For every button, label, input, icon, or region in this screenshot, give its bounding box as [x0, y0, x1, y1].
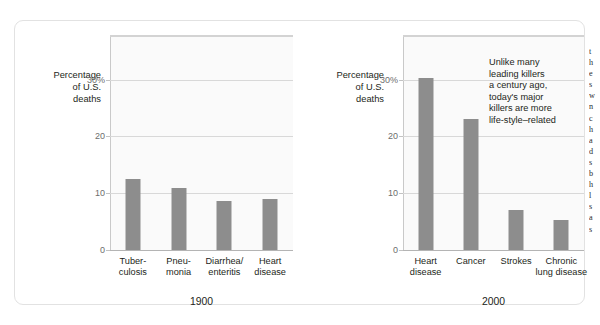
cutoff-text-line: b: [589, 168, 600, 179]
cutoff-text-line: n: [589, 101, 600, 112]
cutoff-text-line: s: [589, 157, 600, 168]
bar: [509, 210, 524, 250]
y-tick-label: 10: [95, 188, 105, 198]
cutoff-text-line: t: [589, 46, 600, 57]
plot-inner-2000: Unlike manyleading killersa century ago,…: [403, 37, 584, 250]
bar: [554, 220, 569, 250]
x-tick-label: Tuber-culosis: [119, 256, 147, 279]
plot-area-2000: Unlike manyleading killersa century ago,…: [403, 35, 584, 250]
bar: [263, 199, 278, 250]
bar: [463, 119, 478, 250]
annotation-line: a century ago,: [489, 80, 585, 92]
bar: [217, 201, 232, 250]
y-axis-title-line: Percentage: [336, 70, 384, 80]
y-tick-label: 0: [393, 245, 398, 255]
y-tick-label: 20: [95, 131, 105, 141]
plot-area-1900: 0102030%Tuber-culosisPneu-moniaDiarrhea/…: [110, 35, 293, 250]
x-tick-label-line: Tuber-: [119, 256, 147, 267]
annotation-line: killers are more: [489, 103, 585, 115]
y-tick-mark: [399, 80, 403, 81]
figure-card: Percentage of U.S. deaths 0102030%Tuber-…: [14, 20, 585, 305]
x-tick-label: Pneu-monia: [166, 256, 191, 279]
x-tick-label-line: Pneu-: [166, 256, 191, 267]
annotation-line: leading killers: [489, 69, 585, 81]
x-tick-label-line: Diarrhea/: [205, 256, 243, 267]
bar: [125, 179, 140, 250]
x-tick-label-line: culosis: [119, 267, 147, 278]
x-tick-label: Heartdisease: [254, 256, 286, 279]
cutoff-text-line: e: [589, 68, 600, 79]
cutoff-text-line: l: [589, 190, 600, 201]
gridline: [403, 250, 584, 251]
y-tick-label: 30%: [87, 75, 105, 85]
cutoff-text-line: s: [589, 79, 600, 90]
cutoff-text-line: s: [589, 224, 600, 235]
x-tick-label: Cancer: [456, 256, 486, 267]
cutoff-text-line: h: [589, 179, 600, 190]
y-tick-mark: [399, 250, 403, 251]
cutoff-text-line: a: [589, 212, 600, 223]
x-tick-label: Chroniclung disease: [536, 256, 588, 279]
x-tick-label-line: lung disease: [536, 267, 588, 278]
year-caption-2000: 2000: [403, 296, 584, 307]
y-axis-spine: [110, 37, 111, 250]
cutoff-text-line: h: [589, 124, 600, 135]
annotation-line: life-style–related: [489, 115, 585, 127]
x-tick-label-line: Heart: [254, 256, 286, 267]
gridline: [110, 80, 293, 81]
x-tick-label-line: Chronic: [536, 256, 588, 267]
chart-panel-2000: Percentage of U.S. deaths Unlike manylea…: [301, 21, 586, 304]
bar: [418, 78, 433, 250]
gridline: [110, 250, 293, 251]
plot-inner-1900: 0102030%Tuber-culosisPneu-moniaDiarrhea/…: [110, 37, 293, 250]
bar: [171, 188, 186, 250]
y-tick-label: 10: [388, 188, 398, 198]
x-tick-label-line: disease: [410, 267, 442, 278]
x-tick-label-line: enteritis: [205, 267, 243, 278]
y-tick-mark: [399, 136, 403, 137]
cutoff-text-line: c: [589, 113, 600, 124]
cutoff-text-line: w: [589, 90, 600, 101]
cutoff-text-line: h: [589, 57, 600, 68]
y-axis-title-2000: Percentage of U.S. deaths: [305, 69, 384, 106]
year-caption-1900: 1900: [110, 296, 293, 307]
y-axis-title-line: deaths: [73, 94, 101, 104]
chart-annotation: Unlike manyleading killersa century ago,…: [489, 57, 585, 127]
y-tick-mark: [106, 136, 110, 137]
y-axis-title-line: deaths: [356, 94, 384, 104]
y-tick-mark: [399, 193, 403, 194]
y-tick-label: 20: [388, 131, 398, 141]
cutoff-text-line: d: [589, 146, 600, 157]
cutoff-text-line: s: [589, 201, 600, 212]
y-tick-mark: [106, 80, 110, 81]
y-tick-mark: [106, 250, 110, 251]
x-tick-label: Diarrhea/enteritis: [205, 256, 243, 279]
x-tick-label-line: monia: [166, 267, 191, 278]
x-tick-label-line: disease: [254, 267, 286, 278]
annotation-line: today's major: [489, 92, 585, 104]
x-tick-label-line: Strokes: [501, 256, 532, 267]
cutoff-body-text-column: theswnchadsbhlsas: [589, 46, 600, 235]
gridline: [110, 136, 293, 137]
x-tick-label: Strokes: [501, 256, 532, 267]
y-axis-spine: [403, 37, 404, 250]
cutoff-text-line: a: [589, 135, 600, 146]
annotation-line: Unlike many: [489, 57, 585, 69]
y-tick-mark: [106, 193, 110, 194]
x-tick-label-line: Cancer: [456, 256, 486, 267]
x-tick-label: Heartdisease: [410, 256, 442, 279]
y-tick-label: 30%: [380, 75, 398, 85]
chart-panel-1900: Percentage of U.S. deaths 0102030%Tuber-…: [15, 21, 301, 304]
x-tick-label-line: Heart: [410, 256, 442, 267]
y-tick-label: 0: [100, 245, 105, 255]
